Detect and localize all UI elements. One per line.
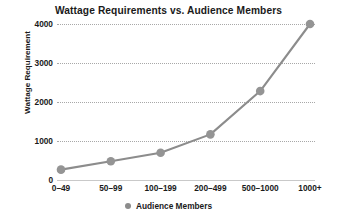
x-axis-tick-label: 200–499	[194, 183, 226, 193]
x-axis-tick-labels: 0–4950–99100–199200–499500–10001000+	[35, 183, 335, 197]
series-audience-members	[57, 24, 315, 180]
data-point-marker	[306, 20, 315, 29]
x-axis-tick-label: 100–199	[144, 183, 176, 193]
x-axis-tick-label: 50–99	[99, 183, 122, 193]
data-point-marker	[156, 148, 165, 157]
chart-title: Wattage Requirements vs. Audience Member…	[0, 5, 337, 16]
plot-area: 01000200030004000	[57, 24, 315, 180]
data-point-marker	[256, 87, 265, 96]
x-axis-line	[57, 180, 315, 181]
y-axis-tick-label: 1000	[35, 136, 53, 146]
x-axis-tick-label: 0–49	[52, 183, 70, 193]
x-axis-tick-label: 1000+	[298, 183, 321, 193]
y-axis-title: Wattage Requirement	[23, 8, 32, 138]
data-point-marker	[57, 165, 66, 174]
chart-legend: Audience Members	[0, 201, 337, 211]
y-axis-tick-label: 4000	[35, 19, 53, 29]
series-line	[61, 24, 310, 170]
circle-marker-icon	[125, 203, 131, 209]
data-point-marker	[206, 130, 215, 139]
data-point-marker	[107, 157, 116, 166]
x-axis-tick-label: 500–1000	[242, 183, 279, 193]
y-axis-tick-label: 3000	[35, 58, 53, 68]
y-axis-tick-label: 2000	[35, 97, 53, 107]
chart-container: Wattage Requirements vs. Audience Member…	[0, 0, 337, 224]
legend-item-label: Audience Members	[136, 201, 212, 211]
